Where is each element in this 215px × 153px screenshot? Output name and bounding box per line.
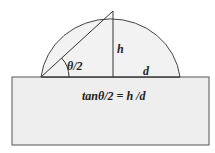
height-label: h [117,42,124,56]
droplet-arc [41,19,180,77]
formula-label: tanθ/2 = h /d [82,89,146,103]
contact-angle-diagram: θ/2 h d tanθ/2 = h /d [0,0,215,153]
substrate [12,77,209,145]
angle-label: θ/2 [67,59,83,73]
base-label: d [143,64,150,78]
